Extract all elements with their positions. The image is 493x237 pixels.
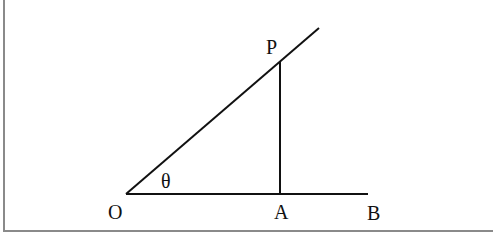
label-theta: θ [161, 170, 171, 192]
label-p: P [266, 36, 277, 58]
label-a: A [274, 201, 289, 223]
label-o: O [108, 201, 122, 223]
ray-op [126, 28, 319, 194]
label-b: B [367, 202, 380, 224]
